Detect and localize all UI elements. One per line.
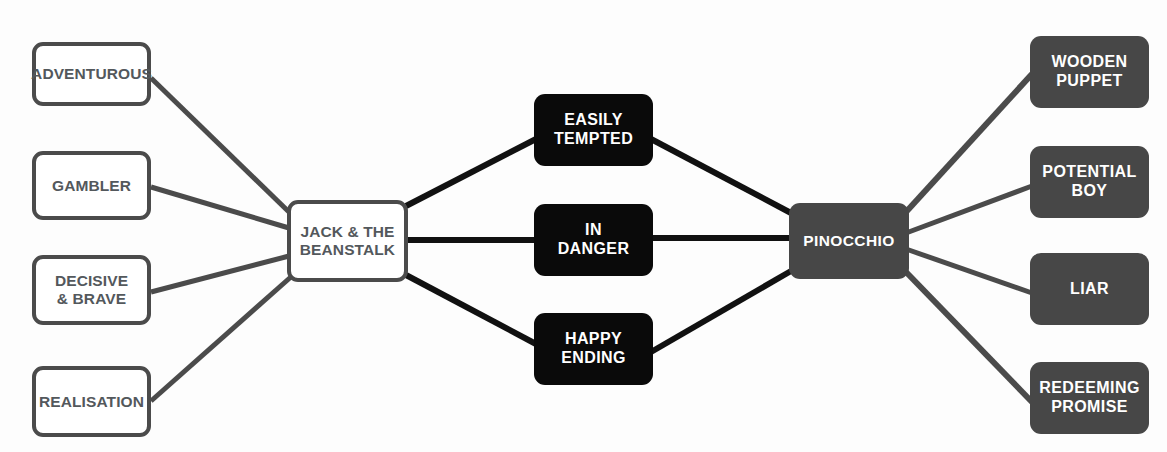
edge-pinocchio-liar [906, 249, 1032, 293]
edge-adventurous-jack [151, 78, 289, 212]
node-label-decisive-brave: DECISIVE & BRAVE [50, 272, 133, 308]
edge-pinocchio-potential-boy [906, 186, 1032, 233]
node-realisation[interactable]: REALISATION [32, 366, 151, 437]
edge-happy-ending-pinocchio [651, 271, 791, 352]
node-liar[interactable]: LIAR [1030, 253, 1149, 325]
node-happy-ending[interactable]: HAPPY ENDING [534, 313, 653, 385]
node-label-wooden-puppet: WOODEN PUPPET [1046, 53, 1132, 90]
edge-realisation-jack [151, 276, 292, 401]
node-easily-tempted[interactable]: EASILY TEMPTED [534, 94, 653, 166]
edge-decisive-jack [151, 256, 289, 292]
node-decisive-brave[interactable]: DECISIVE & BRAVE [32, 255, 151, 325]
node-in-danger[interactable]: IN DANGER [534, 204, 653, 276]
concept-map-canvas: ADVENTUROUSGAMBLERDECISIVE & BRAVEREALIS… [0, 0, 1167, 452]
node-wooden-puppet[interactable]: WOODEN PUPPET [1030, 36, 1149, 108]
node-label-gambler: GAMBLER [47, 177, 136, 195]
node-label-potential-boy: POTENTIAL BOY [1037, 163, 1141, 200]
node-label-easily-tempted: EASILY TEMPTED [549, 111, 638, 148]
node-label-jack-beanstalk: JACK & THE BEANSTALK [295, 223, 400, 259]
edge-gambler-jack [151, 187, 289, 228]
edge-jack-easily-tempted [406, 139, 536, 206]
node-label-in-danger: IN DANGER [553, 221, 635, 258]
node-label-happy-ending: HAPPY ENDING [556, 330, 631, 367]
node-label-redeeming-promise: REDEEMING PROMISE [1034, 379, 1145, 416]
node-redeeming-promise[interactable]: REDEEMING PROMISE [1030, 362, 1149, 434]
edge-pinocchio-redeeming-promise [906, 272, 1032, 402]
node-adventurous[interactable]: ADVENTUROUS [32, 42, 151, 106]
node-jack-beanstalk[interactable]: JACK & THE BEANSTALK [287, 200, 408, 282]
edge-jack-happy-ending [406, 275, 536, 344]
node-label-pinocchio: PINOCCHIO [798, 232, 899, 250]
node-label-realisation: REALISATION [34, 393, 149, 411]
node-label-adventurous: ADVENTUROUS [26, 65, 157, 83]
node-gambler[interactable]: GAMBLER [32, 151, 151, 220]
node-pinocchio[interactable]: PINOCCHIO [789, 203, 909, 279]
node-label-liar: LIAR [1065, 280, 1114, 299]
edge-pinocchio-wooden-puppet [906, 74, 1032, 212]
edge-easily-tempted-pinocchio [651, 139, 791, 213]
node-potential-boy[interactable]: POTENTIAL BOY [1030, 146, 1149, 218]
